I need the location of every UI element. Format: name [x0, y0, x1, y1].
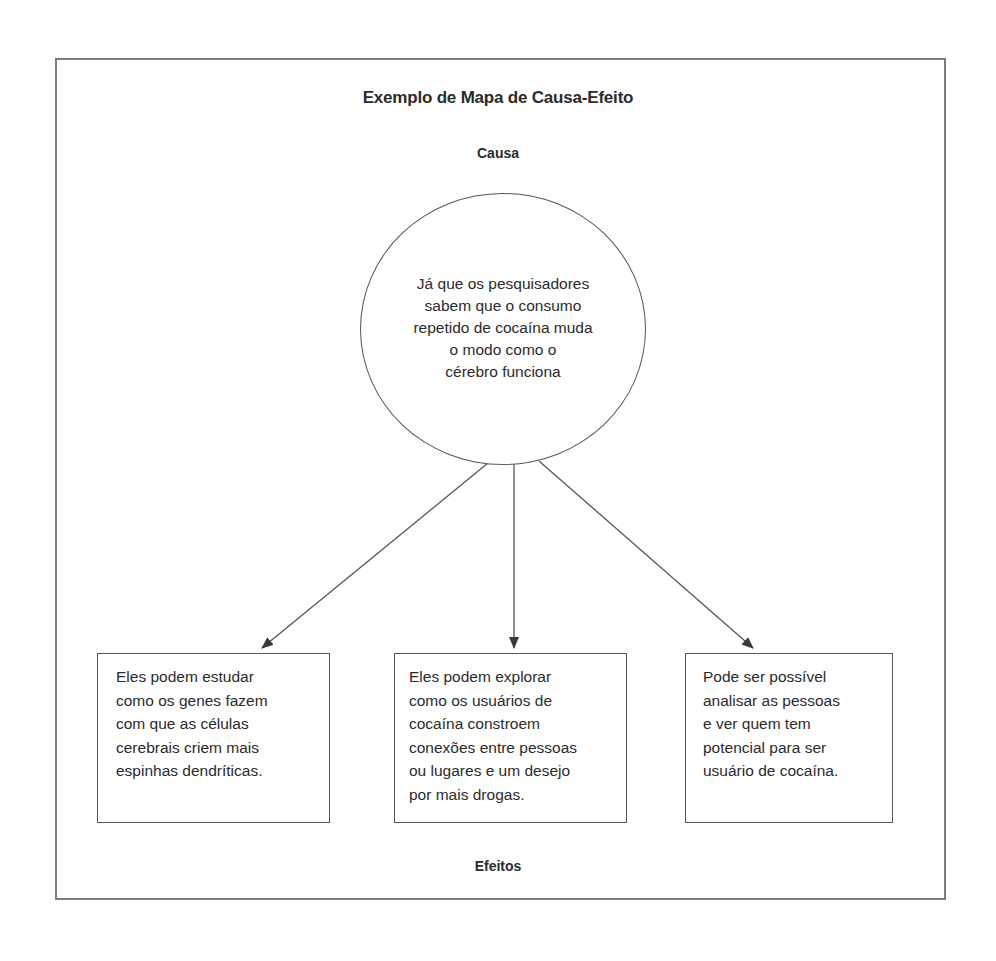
effect-line: Pode ser possível [703, 665, 892, 689]
cause-line: o modo como o [398, 339, 608, 361]
effect-line: ou lugares e um desejo [409, 759, 626, 783]
cause-text: Já que os pesquisadores sabem que o cons… [398, 273, 608, 383]
effect-line: usuário de cocaína. [703, 759, 892, 783]
effect-line: potencial para ser [703, 736, 892, 760]
effect-box-3: Pode ser possível analisar as pessoas e … [685, 653, 893, 823]
effect-line: conexões entre pessoas [409, 736, 626, 760]
effect-line: cocaína constroem [409, 712, 626, 736]
effect-line: e ver quem tem [703, 712, 892, 736]
effect-line: Eles podem explorar [409, 665, 626, 689]
effects-label: Efeitos [0, 858, 996, 874]
cause-line: Já que os pesquisadores [398, 273, 608, 295]
effect-line: com que as células [116, 712, 329, 736]
effect-box-1: Eles podem estudar como os genes fazem c… [97, 653, 330, 823]
effect-line: espinhas dendríticas. [116, 759, 329, 783]
effect-line: analisar as pessoas [703, 689, 892, 713]
cause-circle: Já que os pesquisadores sabem que o cons… [360, 193, 646, 465]
effect-line: por mais drogas. [409, 783, 626, 807]
diagram-title: Exemplo de Mapa de Causa-Efeito [0, 88, 996, 108]
effect-line: como os genes fazem [116, 689, 329, 713]
cause-line: sabem que o consumo [398, 295, 608, 317]
cause-line: cérebro funciona [398, 361, 608, 383]
cause-line: repetido de cocaína muda [398, 317, 608, 339]
effect-line: como os usuários de [409, 689, 626, 713]
effect-line: Eles podem estudar [116, 665, 329, 689]
effect-box-2: Eles podem explorar como os usuários de … [394, 653, 627, 823]
cause-label: Causa [0, 145, 996, 161]
effect-line: cerebrais criem mais [116, 736, 329, 760]
